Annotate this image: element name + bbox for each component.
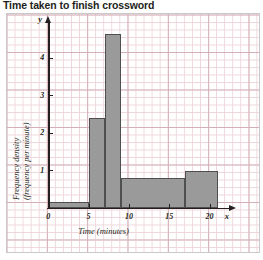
histogram-bar (185, 171, 217, 209)
x-axis-tick-label: 0 (38, 212, 58, 221)
histogram-figure: Time taken to finish crossword 051015201… (0, 0, 263, 260)
y-axis-arrow (45, 16, 51, 23)
x-axis-title: Time (minutes) (78, 226, 129, 236)
y-axis-tick (49, 58, 53, 59)
y-axis-title-line2: (frequency per minute) (21, 122, 31, 200)
histogram-bar (105, 34, 121, 208)
histogram-bar (121, 178, 186, 208)
chart-title: Time taken to finish crossword (3, 0, 154, 11)
x-axis-tick (129, 204, 130, 208)
x-axis-tick (48, 204, 49, 208)
y-axis-tick-label: 4 (28, 53, 44, 62)
x-axis-tick-label: 15 (159, 212, 179, 221)
y-axis-tick (49, 133, 53, 134)
x-axis-line (47, 208, 229, 209)
x-axis-tick (210, 204, 211, 208)
graph-paper-panel: 051015201234xyTime (minutes)Frequency de… (6, 13, 260, 253)
x-axis-letter: x (225, 211, 229, 221)
y-axis-line (48, 22, 49, 208)
x-axis-tick (169, 204, 170, 208)
x-axis-arrow (229, 205, 236, 211)
histogram-bar (89, 118, 105, 208)
y-axis-tick (49, 95, 53, 96)
y-axis-letter: y (38, 14, 42, 24)
y-axis-title: Frequency density(frequency per minute) (11, 122, 31, 200)
x-axis-tick-label: 10 (119, 212, 139, 221)
x-axis-tick-label: 20 (200, 212, 220, 221)
x-axis-tick-label: 5 (79, 212, 99, 221)
y-axis-title-line1: Frequency density (11, 122, 21, 200)
y-axis-tick-label: 3 (28, 91, 44, 100)
plot-area: 051015201234xyTime (minutes)Frequency de… (7, 14, 259, 252)
y-axis-tick (49, 170, 53, 171)
x-axis-tick (89, 204, 90, 208)
